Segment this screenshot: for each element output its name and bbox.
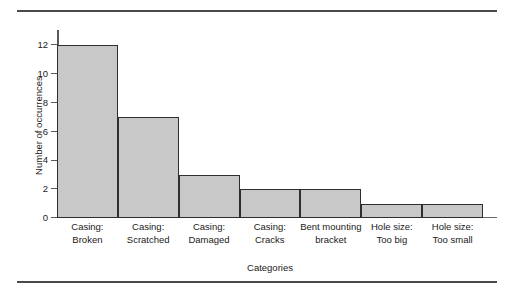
x-axis-label-group: Casing:BrokenCasing:ScratchedCasing:Dama… — [57, 221, 483, 246]
bar — [240, 189, 301, 218]
x-axis-category-label: Casing:Cracks — [239, 221, 300, 246]
bar — [179, 175, 240, 218]
bar-cell — [179, 45, 240, 218]
x-axis-category-label-line: Casing: — [239, 221, 300, 234]
x-axis-category-label-line: Hole size: — [361, 221, 422, 234]
x-axis-category-label: Casing:Damaged — [179, 221, 240, 246]
y-axis-tick-label: 6 — [26, 127, 48, 137]
bar — [57, 45, 118, 218]
x-axis-category-label-line: Cracks — [239, 234, 300, 247]
x-axis-category-label-line: bracket — [300, 234, 361, 247]
pareto-bar-chart-figure: Number of occurrences 024681012 Casing:B… — [0, 0, 512, 289]
x-axis-category-label-line: Too big — [361, 234, 422, 247]
bar-cell — [57, 45, 118, 218]
y-axis-tick-label: 12 — [26, 40, 48, 50]
x-axis-category-label-line: Bent mounting — [300, 221, 361, 234]
x-axis-title: Categories — [57, 262, 483, 273]
bar-cell — [240, 45, 301, 218]
bar-cell — [361, 45, 422, 218]
bar — [118, 117, 179, 218]
y-axis-tick-label: 0 — [26, 213, 48, 223]
x-axis-category-label-line: Too small — [422, 234, 483, 247]
x-axis-category-label-line: Damaged — [179, 234, 240, 247]
y-axis-tick-label: 10 — [26, 69, 48, 79]
figure-bottom-rule — [17, 281, 497, 283]
bar — [422, 204, 483, 218]
x-axis-category-label-line: Casing: — [118, 221, 179, 234]
x-axis-category-label: Bent mountingbracket — [300, 221, 361, 246]
bar — [361, 204, 422, 218]
bar-series-group — [57, 45, 483, 218]
x-axis-category-label-line: Casing: — [179, 221, 240, 234]
x-axis-category-label-line: Hole size: — [422, 221, 483, 234]
x-axis-category-label: Hole size:Too big — [361, 221, 422, 246]
y-axis-tick-label: 4 — [26, 155, 48, 165]
bar-cell — [300, 45, 361, 218]
x-axis-category-label: Casing:Broken — [57, 221, 118, 246]
bar-cell — [422, 45, 483, 218]
x-axis-category-label: Hole size:Too small — [422, 221, 483, 246]
x-axis-category-label-line: Casing: — [57, 221, 118, 234]
y-axis-tick-label: 8 — [26, 98, 48, 108]
x-axis-category-label-line: Scratched — [118, 234, 179, 247]
bar — [300, 189, 361, 218]
y-axis-tick-label: 2 — [26, 184, 48, 194]
figure-top-rule — [17, 10, 497, 12]
x-axis-category-label-line: Broken — [57, 234, 118, 247]
bar-cell — [118, 45, 179, 218]
x-axis-category-label: Casing:Scratched — [118, 221, 179, 246]
